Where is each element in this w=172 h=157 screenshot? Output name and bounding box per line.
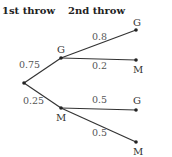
leaf-dot-m xyxy=(134,58,138,62)
probability-label: 0.2 xyxy=(92,60,107,71)
outcome-label: M xyxy=(133,146,143,157)
leaf-dot-g xyxy=(134,28,138,32)
leaf-dot-g xyxy=(134,108,138,112)
outcome-label: G xyxy=(133,95,141,106)
tree-nodes xyxy=(22,28,138,144)
header-first-throw: 1st throw xyxy=(2,5,56,16)
node-dot-m xyxy=(59,106,63,110)
outcome-label: G xyxy=(133,17,141,28)
outcome-label: M xyxy=(56,112,66,123)
edge-m-to-g xyxy=(61,108,136,110)
probability-label: 0.75 xyxy=(19,59,40,70)
tree-edges xyxy=(24,30,136,142)
probability-tree-diagram: 1st throw 2nd throw G0.75M0.25G0.8M0.2G0… xyxy=(0,0,172,157)
outcome-label: M xyxy=(133,64,143,75)
probability-label: 0.5 xyxy=(92,94,107,105)
node-dot-g xyxy=(59,56,63,60)
probability-label: 0.5 xyxy=(92,127,107,138)
leaf-dot-m xyxy=(134,140,138,144)
root-node-dot xyxy=(22,81,26,85)
probability-label: 0.25 xyxy=(23,95,44,106)
probability-label: 0.8 xyxy=(92,31,107,42)
tree-labels: G0.75M0.25G0.8M0.2G0.5M0.5 xyxy=(19,17,143,157)
outcome-label: G xyxy=(57,44,65,55)
header-second-throw: 2nd throw xyxy=(68,5,126,16)
